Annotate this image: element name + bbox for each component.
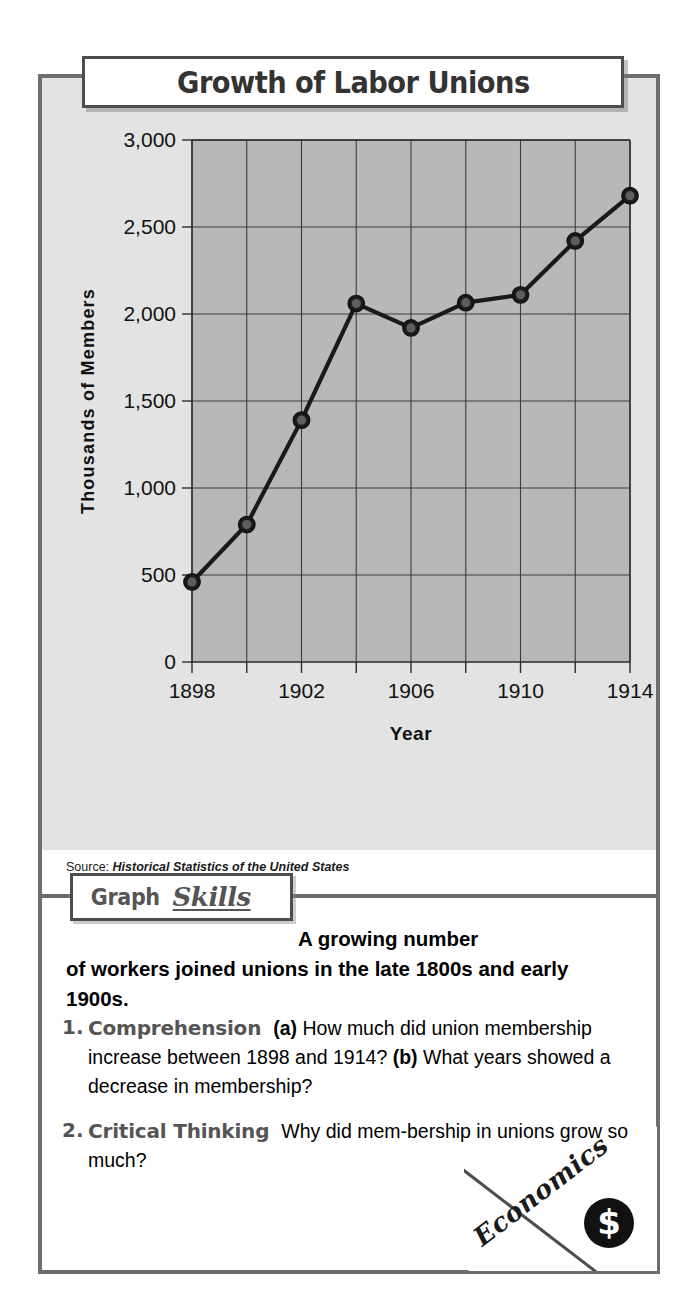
svg-text:2,000: 2,000 (123, 302, 176, 325)
line-chart-svg: 05001,0001,5002,0002,5003,000 1898190219… (42, 122, 664, 842)
graph-skills-figure: Growth of Labor Unions 05001,0001,5002,0… (38, 74, 660, 1274)
graph-skills-word2: Skills (173, 882, 251, 912)
plot-area: 05001,0001,5002,0002,5003,000 1898190219… (42, 122, 656, 850)
economics-triangle (464, 1124, 660, 1274)
x-axis-title: Year (390, 723, 433, 744)
svg-text:2,500: 2,500 (123, 215, 176, 238)
question-1-number: 1. (62, 1014, 88, 1101)
gridlines (192, 140, 630, 662)
x-axis-tick-labels: 18981902190619101914 (169, 679, 654, 702)
source-title: Historical Statistics of the United Stat… (113, 860, 350, 874)
intro-line-2: of workers joined unions in the late 180… (66, 957, 473, 980)
svg-text:500: 500 (141, 563, 176, 586)
economics-edge-bottom (464, 1271, 660, 1274)
source-prefix: Source: (66, 860, 109, 874)
graph-skills-word1: Graph (91, 884, 160, 910)
intro-paragraph: A growing number of workers joined union… (66, 924, 636, 1014)
svg-text:1910: 1910 (497, 679, 544, 702)
question-1-part-a-marker: (a) (273, 1017, 297, 1039)
svg-text:1898: 1898 (169, 679, 216, 702)
y-axis-title: Thousands of Members (78, 288, 98, 514)
chart-title-plaque: Growth of Labor Unions (82, 56, 624, 108)
svg-text:1,500: 1,500 (123, 389, 176, 412)
question-1-part-b-marker: (b) (393, 1046, 418, 1068)
intro-line-1: A growing number (66, 924, 636, 954)
svg-text:3,000: 3,000 (123, 128, 176, 151)
question-2-number: 2. (62, 1117, 88, 1175)
dollar-coin-icon: $ (584, 1198, 634, 1248)
svg-text:1902: 1902 (278, 679, 325, 702)
dollar-symbol: $ (597, 1205, 621, 1239)
question-1-body: Comprehension(a) How much did union memb… (88, 1014, 640, 1101)
y-axis-tick-labels: 05001,0001,5002,0002,5003,000 (123, 128, 176, 673)
chart-panel: Growth of Labor Unions 05001,0001,5002,0… (42, 78, 656, 850)
economics-edge-right (657, 1124, 660, 1274)
svg-text:1906: 1906 (388, 679, 435, 702)
svg-text:1,000: 1,000 (123, 476, 176, 499)
economics-corner-badge: Economics $ (464, 1124, 660, 1274)
question-2-label: Critical Thinking (88, 1119, 269, 1143)
graph-skills-badge: Graph Skills (70, 873, 293, 921)
source-note: Source: Historical Statistics of the Uni… (66, 860, 349, 874)
svg-text:1914: 1914 (607, 679, 654, 702)
question-1-label: Comprehension (88, 1016, 261, 1040)
question-1: 1. Comprehension(a) How much did union m… (62, 1014, 640, 1101)
page-title: Growth of Labor Unions (177, 64, 530, 100)
svg-text:0: 0 (164, 650, 176, 673)
